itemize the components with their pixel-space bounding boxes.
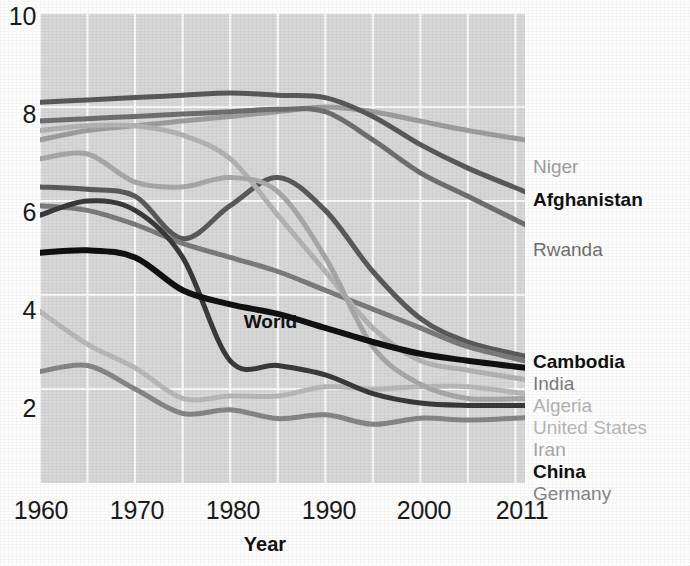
- legend-item-india[interactable]: India: [533, 374, 574, 393]
- legend: NigerAfghanistanRwandaCambodiaIndiaAlger…: [533, 0, 690, 566]
- plot-area: [40, 13, 525, 483]
- x-tick-2000: 2000: [379, 498, 469, 523]
- series-inline-label-world: World: [244, 312, 297, 331]
- x-axis-title: Year: [0, 533, 530, 556]
- legend-item-cambodia[interactable]: Cambodia: [533, 352, 625, 371]
- chart-page: 10 8 6 4 2 World 1960 1970 1980 1990 200…: [0, 0, 690, 566]
- legend-item-united-states[interactable]: United States: [533, 418, 647, 437]
- legend-item-china[interactable]: China: [533, 462, 586, 481]
- y-tick-8: 8: [2, 102, 36, 127]
- legend-item-niger[interactable]: Niger: [533, 157, 578, 176]
- x-tick-1960: 1960: [0, 498, 86, 523]
- y-tick-2: 2: [2, 396, 36, 421]
- y-tick-4: 4: [2, 298, 36, 323]
- legend-item-germany[interactable]: Germany: [533, 484, 611, 503]
- x-tick-1970: 1970: [92, 498, 182, 523]
- x-tick-1980: 1980: [188, 498, 278, 523]
- legend-item-algeria[interactable]: Algeria: [533, 396, 592, 415]
- series-lines: [40, 13, 525, 483]
- x-tick-1990: 1990: [284, 498, 374, 523]
- legend-item-rwanda[interactable]: Rwanda: [533, 240, 603, 259]
- y-tick-6: 6: [2, 200, 36, 225]
- y-tick-10: 10: [2, 4, 36, 29]
- legend-item-iran[interactable]: Iran: [533, 440, 566, 459]
- legend-item-afghanistan[interactable]: Afghanistan: [533, 190, 643, 209]
